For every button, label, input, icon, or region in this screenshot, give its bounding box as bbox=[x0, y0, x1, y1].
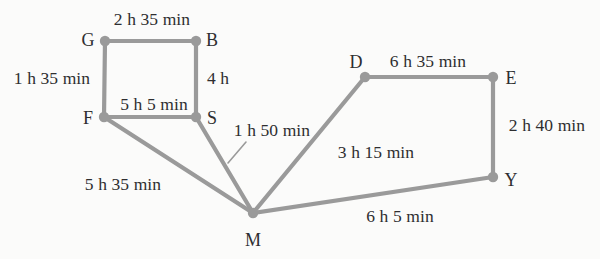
edge-label-M-Y: 6 h 5 min bbox=[366, 208, 434, 226]
leader-layer bbox=[228, 142, 246, 163]
node-label-Y: Y bbox=[505, 171, 518, 189]
node-dot-G bbox=[100, 36, 110, 46]
node-label-B: B bbox=[206, 31, 218, 49]
node-dot-S bbox=[191, 112, 201, 122]
node-label-G: G bbox=[82, 31, 95, 49]
edge-label-B-S: 4 h bbox=[207, 70, 229, 88]
node-label-S: S bbox=[207, 109, 217, 127]
node-dot-B bbox=[191, 36, 201, 46]
edge-G-F bbox=[104, 41, 105, 117]
node-dot-E bbox=[488, 72, 498, 82]
edge-label-F-S: 5 h 5 min bbox=[120, 96, 188, 114]
node-dot-D bbox=[360, 72, 370, 82]
graph-diagram: G B F S M D E Y 2 h 35 min 1 h 35 min 4 … bbox=[0, 0, 600, 259]
edge-label-S-M: 1 h 50 min bbox=[234, 122, 310, 140]
edge-label-G-B: 2 h 35 min bbox=[114, 11, 190, 29]
leader-line-S-M bbox=[228, 142, 246, 163]
node-dot-Y bbox=[488, 172, 498, 182]
node-label-M: M bbox=[245, 231, 261, 249]
edge-label-F-M: 5 h 35 min bbox=[85, 176, 161, 194]
edge-label-G-F: 1 h 35 min bbox=[14, 70, 90, 88]
edge-label-D-E: 6 h 35 min bbox=[390, 53, 466, 71]
edge-label-E-Y: 2 h 40 min bbox=[509, 117, 585, 135]
node-dot-M bbox=[248, 208, 258, 218]
node-label-D: D bbox=[350, 53, 363, 71]
node-label-F: F bbox=[83, 109, 93, 127]
node-dot-F bbox=[99, 112, 109, 122]
node-label-E: E bbox=[506, 69, 517, 87]
edge-label-M-D: 3 h 15 min bbox=[338, 144, 414, 162]
edge-F-M bbox=[104, 117, 253, 213]
